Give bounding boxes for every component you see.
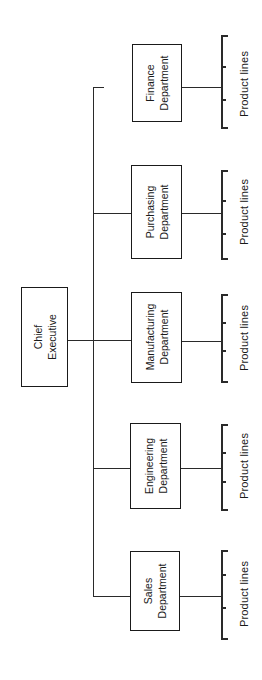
bracket-tick [221,294,228,296]
bus-to-engineering [93,468,130,469]
finance-department-label: Finance Department [143,56,171,111]
bracket-tick [221,509,228,511]
chief-executive-label: Chief Executive [31,314,59,360]
connector-sales [93,596,130,597]
bracket-tick [221,381,228,383]
finance-to-products [182,87,222,88]
manufacturing-department-label: Manufacturing Department [143,304,171,371]
chief-executive-line1: Chief [31,314,45,360]
engineering-department-label: Engineering Department [142,438,170,494]
bracket-tick [221,574,226,576]
purchasing-line2: Department [157,185,171,240]
sales-line2: Department [155,564,169,619]
bracket-tick [221,233,226,235]
bracket-tick [221,481,226,483]
engineering-bracket [221,424,223,510]
bracket-tick [221,170,228,172]
manufacturing-bracket [221,294,223,382]
bracket-tick [221,452,226,454]
sales-product-lines-label: Product lines [237,561,251,627]
bracket-tick [221,35,228,37]
bracket-tick [221,127,228,129]
finance-line1: Finance [143,56,157,111]
bracket-tick [221,258,228,260]
purchasing-department-label: Purchasing Department [143,185,171,240]
purchasing-bracket [221,170,223,259]
bus-top-stub [93,87,104,88]
bracket-tick [221,638,228,640]
manufacturing-line2: Department [157,304,171,371]
engineering-product-lines-label: Product lines [237,433,251,499]
manufacturing-product-lines-label: Product lines [237,305,251,371]
purchasing-product-lines-label: Product lines [237,179,251,245]
finance-line2: Department [157,56,171,111]
sales-bracket [221,550,223,639]
finance-bracket [221,35,223,128]
connector-ceo-manufacturing [68,340,131,341]
sales-department-label: Sales Department [141,564,169,619]
purchasing-to-products [182,213,222,214]
purchasing-line1: Purchasing [143,185,157,240]
engineering-line2: Department [156,438,170,494]
bracket-tick [221,66,226,68]
bracket-tick [221,424,228,426]
finance-product-lines-label: Product lines [237,51,251,117]
sales-line1: Sales [141,564,155,619]
bracket-tick [221,99,226,101]
sales-to-products [180,596,222,597]
bracket-tick [221,322,226,324]
bracket-tick [221,607,226,609]
manufacturing-line1: Manufacturing [143,304,157,371]
manufacturing-to-products [182,341,222,342]
bracket-tick [221,350,226,352]
engineering-to-products [181,468,222,469]
bus-line [93,87,94,597]
engineering-line1: Engineering [142,438,156,494]
bracket-tick [221,550,228,552]
bracket-tick [221,200,226,202]
bus-to-purchasing [93,213,131,214]
chief-executive-line2: Executive [45,314,59,360]
